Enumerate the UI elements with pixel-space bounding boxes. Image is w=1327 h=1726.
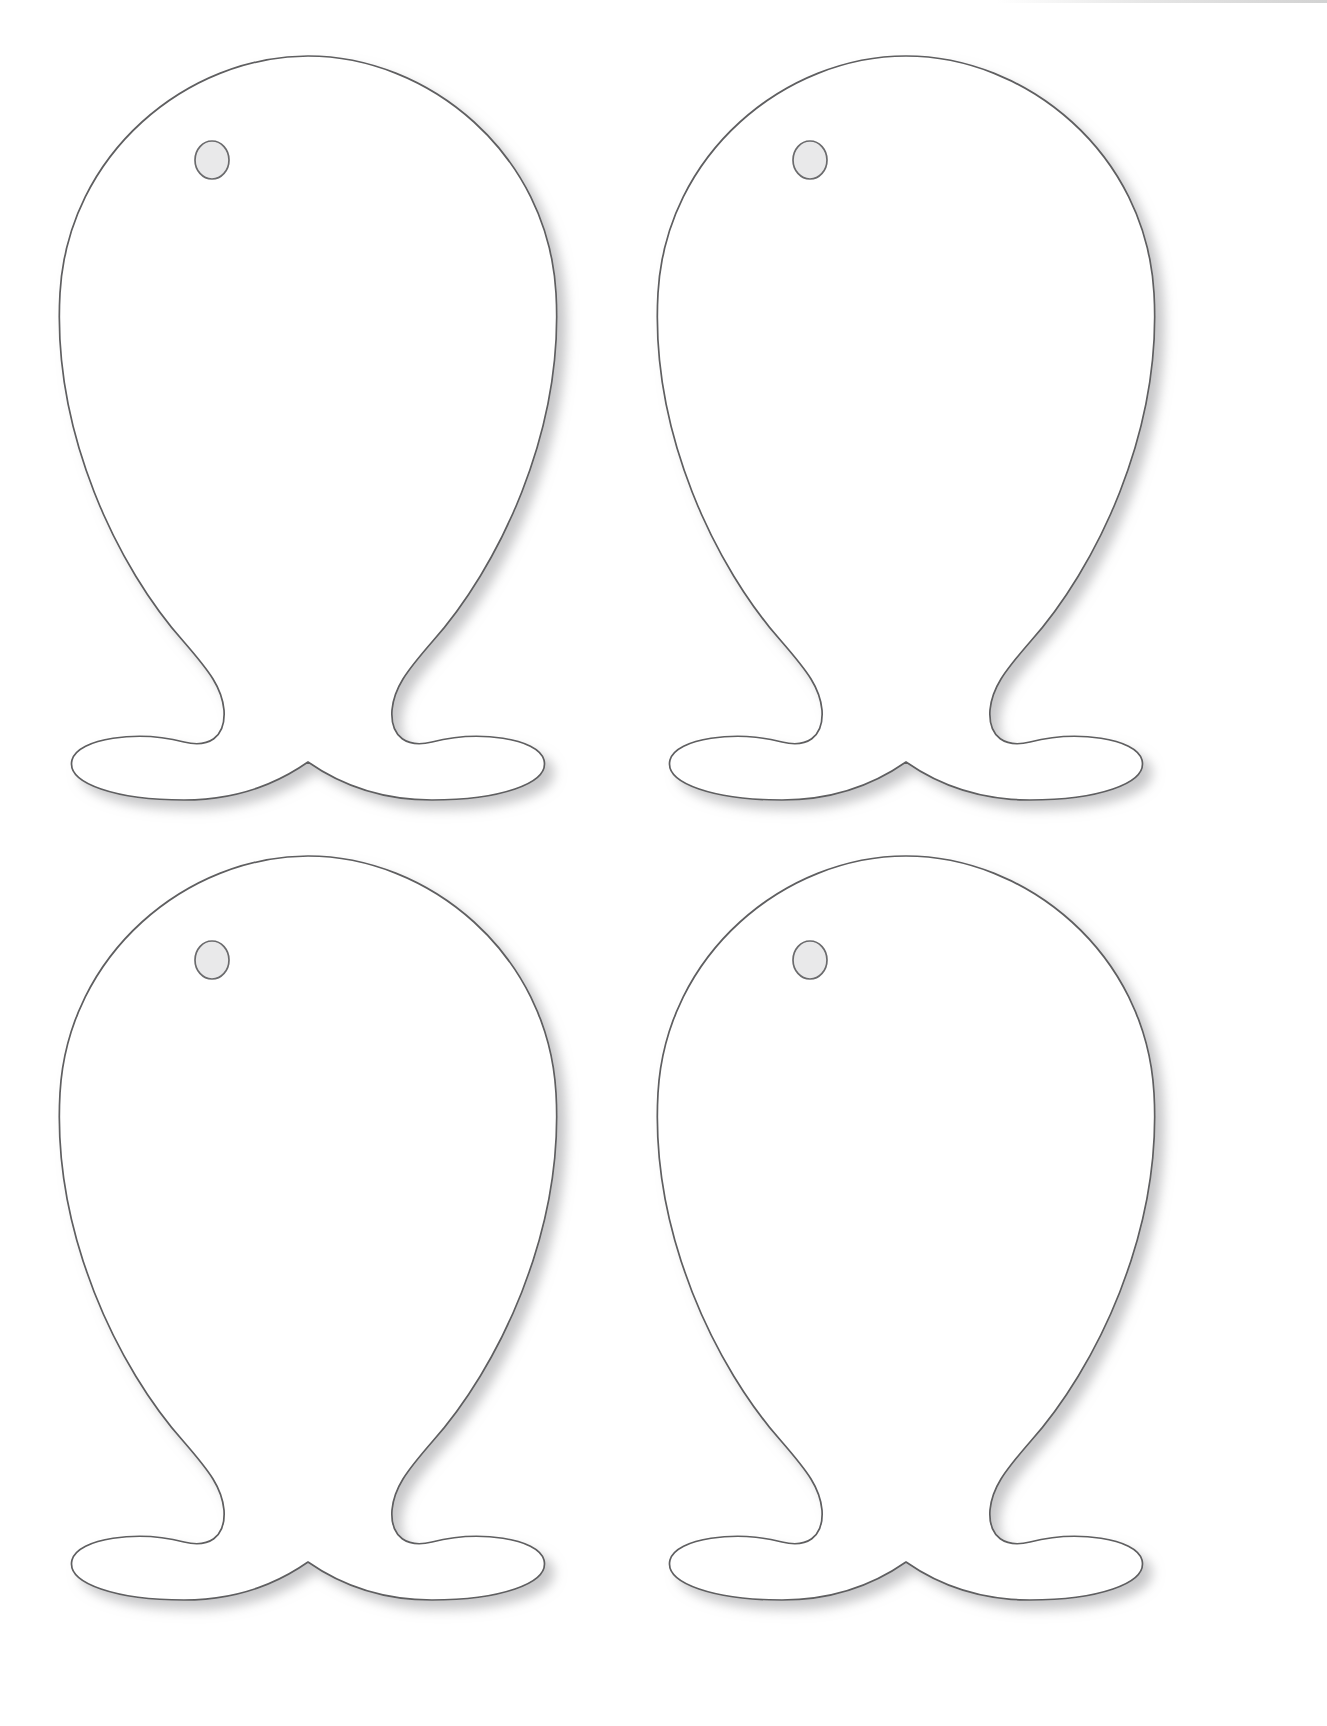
fish-body-shape [59, 856, 556, 1600]
fish-outline-4 [626, 848, 1186, 1608]
printable-page [0, 0, 1327, 1726]
fish-eye-hole [793, 941, 827, 979]
fish-eye-hole [195, 941, 229, 979]
fish-outline-1 [28, 48, 588, 808]
fish-body-shape [657, 856, 1154, 1600]
fish-outline-3 [28, 848, 588, 1608]
fish-body-shape [657, 56, 1154, 800]
fish-body-shape [59, 56, 556, 800]
paper-edge-shadow [997, 0, 1327, 3]
fish-eye-hole [195, 141, 229, 179]
fish-eye-hole [793, 141, 827, 179]
fish-outline-2 [626, 48, 1186, 808]
